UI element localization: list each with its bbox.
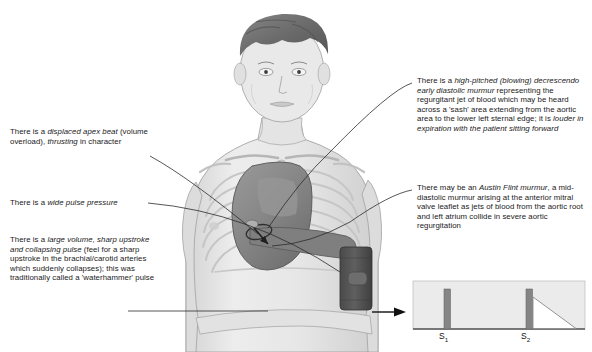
- pupil-right: [297, 70, 301, 74]
- cuff-bladder-window: [348, 272, 367, 285]
- phonocardiogram-panel: [413, 281, 585, 329]
- figure-canvas: There is a displaced apex beat (volume o…: [0, 0, 592, 352]
- annotation-wide-pulse-pressure: There is a wide pulse pressure: [10, 198, 170, 208]
- pcg-s2-label: S2: [521, 331, 530, 343]
- annotation-collapsing-pulse: There is a large volume, sharp upstroke …: [10, 235, 155, 283]
- pcg-s1-bar: [444, 289, 451, 329]
- annotation-apex-beat: There is a displaced apex beat (volume o…: [10, 127, 150, 146]
- ear-left: [234, 63, 246, 85]
- phonocardiogram-arrowhead: [394, 308, 406, 317]
- heart-chamber-shading: [258, 177, 298, 216]
- ear-right: [318, 63, 330, 85]
- annotation-austin-flint-murmur: There may be an Austin Flint murmur, a m…: [417, 183, 589, 231]
- anatomical-illustration: [0, 0, 592, 352]
- pcg-s2-bar: [526, 289, 533, 329]
- pcg-s1-subscript: 1: [445, 336, 448, 343]
- annotation-early-diastolic-murmur: There is a high-pitched (blowing) decres…: [417, 76, 589, 134]
- pcg-s1-label: S1: [439, 331, 448, 343]
- pupil-left: [264, 70, 268, 74]
- nipple-left: [209, 222, 219, 230]
- pcg-s2-subscript: 2: [527, 336, 530, 343]
- torso-group: [182, 14, 381, 352]
- blood-pressure-cuff: [340, 247, 372, 310]
